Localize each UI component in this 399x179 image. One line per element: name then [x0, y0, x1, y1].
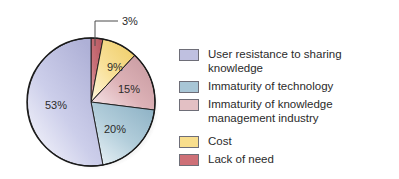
- legend-label-immaturity-technology: Immaturity of technology: [208, 79, 333, 93]
- label-9: 9%: [107, 61, 123, 73]
- legend-swatch-lack-of-need: [179, 154, 199, 166]
- legend-item-immaturity-km-industry[interactable]: Immaturity of knowledge management indus…: [179, 97, 397, 125]
- legend-swatch-cost: [179, 136, 199, 148]
- legend-item-user-resistance[interactable]: User resistance to sharing knowledge: [179, 47, 397, 75]
- legend-label-immaturity-km-industry: Immaturity of knowledge management indus…: [208, 97, 333, 125]
- legend-label-user-resistance: User resistance to sharing knowledge: [208, 47, 397, 75]
- legend-swatch-immaturity-km-industry: [179, 99, 199, 111]
- label-3: 3%: [122, 15, 138, 27]
- label-15: 15%: [118, 83, 140, 95]
- legend: User resistance to sharing knowledge Imm…: [179, 47, 397, 170]
- legend-swatch-user-resistance: [179, 49, 199, 61]
- legend-swatch-immaturity-technology: [179, 81, 199, 93]
- chart-figure: 3% 9% 15% 20% 53% User resistance to sha…: [0, 0, 399, 179]
- legend-item-immaturity-technology[interactable]: Immaturity of technology: [179, 79, 397, 93]
- legend-label-cost: Cost: [208, 134, 232, 148]
- label-53: 53%: [45, 99, 67, 111]
- label-20: 20%: [104, 123, 126, 135]
- legend-label-lack-of-need: Lack of need: [208, 152, 274, 166]
- legend-item-cost[interactable]: Cost: [179, 134, 397, 148]
- legend-item-lack-of-need[interactable]: Lack of need: [179, 152, 397, 166]
